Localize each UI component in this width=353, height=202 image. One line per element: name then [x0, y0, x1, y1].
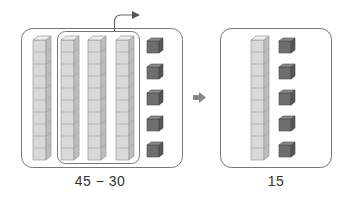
right-panel-label: 15	[246, 173, 306, 189]
left-panel-label: 45 − 30	[55, 173, 145, 189]
tens-rod-grouped	[61, 36, 79, 160]
ones-cube	[147, 64, 163, 79]
right-panel-frame	[221, 29, 332, 168]
ones-cube	[147, 142, 163, 157]
left-panel	[22, 11, 183, 168]
transition-arrow-icon	[193, 92, 206, 103]
ones-cube	[279, 116, 295, 131]
ones-cube	[279, 90, 295, 105]
tens-rod-grouped	[88, 36, 106, 160]
ones-cube	[279, 38, 295, 53]
ones-cube	[147, 90, 163, 105]
tens-rod-grouped	[116, 36, 134, 160]
ones-cube	[279, 64, 295, 79]
tens-rod	[251, 36, 269, 160]
right-panel	[221, 29, 332, 168]
ones-cube	[147, 38, 163, 53]
base-ten-blocks-diagram	[0, 0, 353, 202]
ones-cube	[279, 142, 295, 157]
ones-cube	[147, 116, 163, 131]
tens-rod	[33, 36, 51, 160]
